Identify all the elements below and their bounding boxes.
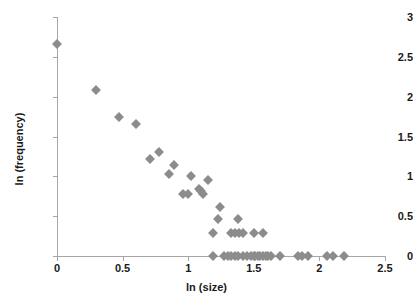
y-axis-title: ln (frequency) [13, 74, 25, 224]
x-axis-tick-label: 2.5 [377, 262, 392, 274]
scatter-chart: 00.511.522.53 00.511.522.5 ln (size) ln … [0, 0, 413, 302]
x-axis-tick-label: 0.5 [115, 262, 130, 274]
x-axis-tick [188, 257, 189, 261]
x-axis-tick [385, 257, 386, 261]
x-axis-tick [57, 257, 58, 261]
x-axis-tick-label: 2 [316, 262, 322, 274]
x-axis-title: ln (size) [0, 281, 413, 293]
x-axis-tick-label: 1.5 [246, 262, 261, 274]
x-axis-tick [319, 257, 320, 261]
x-axis-tick-label: 1 [185, 262, 191, 274]
x-axis-tick [123, 257, 124, 261]
x-axis-tick-label: 0 [54, 262, 60, 274]
